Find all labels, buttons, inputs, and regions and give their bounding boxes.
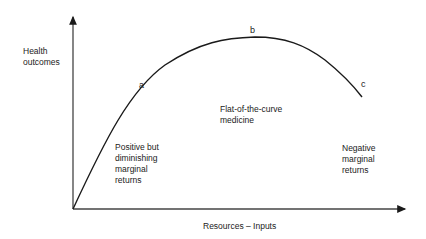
region-negative-returns: Negative marginal returns [342, 143, 376, 176]
y-axis-label-line2: outcomes [23, 57, 60, 68]
y-axis-label-line1: Health [23, 46, 60, 57]
region-left-line1: Positive but [115, 142, 159, 153]
region-right-line2: marginal [342, 154, 376, 165]
point-a-label: a [139, 80, 144, 90]
region-left-line3: marginal [115, 164, 159, 175]
region-middle-line1: Flat-of-the-curve [220, 104, 282, 115]
y-axis-label: Health outcomes [23, 46, 60, 68]
diagram-canvas [0, 0, 426, 239]
region-right-line1: Negative [342, 143, 376, 154]
x-axis-label: Resources – Inputs [203, 221, 276, 232]
point-c-label: c [361, 79, 366, 89]
region-right-line3: returns [342, 165, 376, 176]
point-b-label: b [250, 25, 255, 35]
region-positive-diminishing: Positive but diminishing marginal return… [115, 142, 159, 186]
region-left-line2: diminishing [115, 153, 159, 164]
region-left-line4: returns [115, 175, 159, 186]
region-middle-line2: medicine [220, 115, 282, 126]
region-flat-of-curve: Flat-of-the-curve medicine [220, 104, 282, 126]
